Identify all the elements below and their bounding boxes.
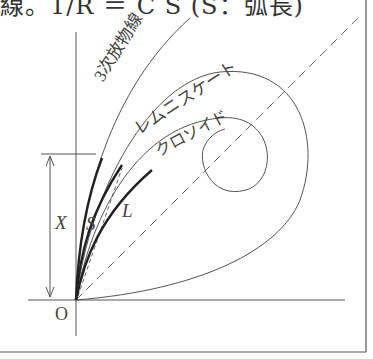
label-x: X	[55, 212, 67, 234]
label-s: S	[86, 213, 96, 235]
label-origin: O	[55, 304, 68, 325]
label-l: L	[122, 200, 133, 222]
